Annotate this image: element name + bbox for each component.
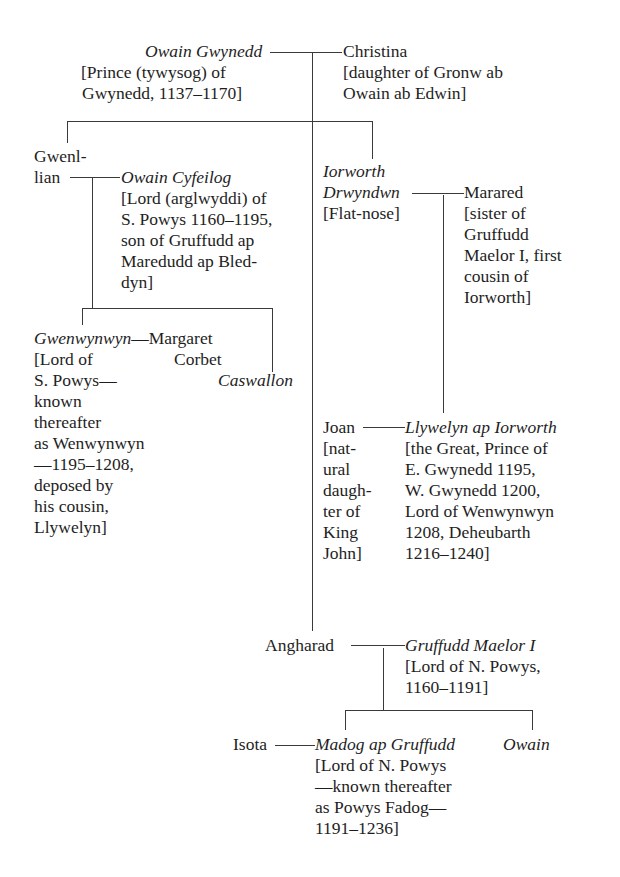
note-gruffudd-maelor-2: 1160–1191] [405, 677, 488, 699]
note-marared-2: Gruffudd [464, 224, 529, 246]
marriage-line-owain-christina [270, 52, 342, 53]
note-owain-gwynedd-2: Gwynedd, 1137–1170] [82, 83, 242, 105]
note-gwenwynwyn-4: thereafter [34, 412, 101, 434]
person-gwenllian-1: Gwenl- [34, 146, 86, 168]
sibling-bar-cyfeilog [82, 308, 272, 309]
person-owain-cyfeilog: Owain Cyfeilog [121, 167, 231, 189]
marriage-line-angharad-gruffudd [351, 645, 405, 646]
marriage-line-joan-llywelyn [363, 427, 405, 428]
descent-line-iorworth [372, 121, 373, 159]
note-llywelyn-2: E. Gwynedd 1195, [405, 459, 536, 481]
descent-line-gwenllian [67, 121, 68, 143]
note-madog-2: —known thereafter [315, 776, 452, 798]
note-gwenwynwyn-7: deposed by [34, 475, 113, 497]
descent-line-owain [532, 710, 533, 730]
note-madog-4: 1191–1236] [315, 818, 399, 840]
person-owain: Owain [503, 734, 550, 756]
note-marared-4: cousin of [464, 266, 529, 288]
person-caswallon: Caswallon [218, 370, 293, 392]
note-joan-3: daugh- [323, 480, 372, 502]
note-joan-2: ural [323, 459, 350, 481]
person-madog: Madog ap Gruffudd [315, 734, 455, 756]
note-gruffudd-maelor-1: [Lord of N. Powys, [405, 656, 541, 678]
descent-line-caswallon [272, 308, 273, 372]
person-margaret-1: Margaret [149, 328, 213, 348]
person-gwenwynwyn: Gwenwynwyn [34, 328, 131, 348]
note-llywelyn-6: 1216–1240] [405, 543, 490, 565]
person-gruffudd-maelor: Gruffudd Maelor I [405, 635, 535, 657]
person-llywelyn: Llywelyn ap Iorworth [405, 417, 557, 439]
descent-line-main-trunk [312, 53, 313, 631]
note-christina-1: [daughter of Gronw ab [343, 62, 503, 84]
descent-line-gruffudd-children [383, 648, 384, 710]
person-isota: Isota [233, 734, 267, 756]
note-owain-cyfeilog-5: dyn] [121, 272, 153, 294]
note-owain-cyfeilog-1: [Lord (arglwyddi) of [121, 188, 266, 210]
person-iorworth-1: Iorworth [323, 161, 385, 183]
marriage-line-iorworth-marared [412, 193, 464, 194]
marriage-line-gwenllian-cyfeilog [70, 177, 120, 178]
note-gwenwynwyn-2: S. Powys— [34, 370, 117, 392]
person-gwenllian-2: lian [34, 167, 60, 189]
note-owain-cyfeilog-4: Maredudd ap Bled- [121, 251, 257, 273]
note-joan-5: King [323, 522, 358, 544]
sibling-bar-gruffudd [345, 710, 533, 711]
note-joan-6: John] [323, 543, 362, 565]
marriage-line-isota-madog [275, 745, 315, 746]
marriage-dash: — [131, 328, 149, 348]
note-gwenwynwyn-9: Llywelyn] [34, 517, 107, 539]
person-margaret-2: Corbet [174, 349, 222, 371]
note-llywelyn-4: Lord of Wenwynwyn [405, 501, 554, 523]
descent-line-gwenwynwyn [82, 308, 83, 325]
note-owain-gwynedd-1: [Prince (tywysog) of [81, 62, 226, 84]
note-madog-3: as Powys Fadog— [315, 797, 446, 819]
note-joan-4: ter of [323, 501, 360, 523]
note-gwenwynwyn-8: his cousin, [34, 496, 109, 518]
note-llywelyn-3: W. Gwynedd 1200, [405, 480, 540, 502]
note-iorworth: [Flat-nose] [323, 203, 400, 225]
note-marared-3: Maelor I, first [464, 245, 562, 267]
descent-line-cyfeilog-children [92, 178, 93, 308]
person-iorworth-2: Drwyndwn [323, 182, 400, 204]
note-gwenwynwyn-6: —1195–1208, [34, 454, 134, 476]
person-gwenwynwyn-line: Gwenwynwyn—Margaret [34, 328, 213, 350]
note-marared-5: Iorworth] [464, 287, 531, 309]
person-angharad: Angharad [265, 635, 334, 657]
note-llywelyn-5: 1208, Deheubarth [405, 522, 530, 544]
note-owain-cyfeilog-3: son of Gruffudd ap [121, 230, 254, 252]
note-joan-1: [nat- [323, 438, 356, 460]
note-christina-2: Owain ab Edwin] [343, 83, 466, 105]
person-joan: Joan [323, 417, 355, 439]
person-christina: Christina [343, 41, 407, 63]
sibling-bar-owain-gwynedd [67, 121, 372, 122]
note-gwenwynwyn-3: known [34, 391, 82, 413]
person-owain-gwynedd: Owain Gwynedd [145, 41, 262, 63]
person-marared: Marared [464, 182, 523, 204]
descent-line-madog [345, 710, 346, 730]
note-llywelyn-1: [the Great, Prince of [405, 438, 548, 460]
note-gwenwynwyn-1: [Lord of [34, 349, 93, 371]
note-gwenwynwyn-5: as Wenwynwyn [34, 433, 145, 455]
note-owain-cyfeilog-2: S. Powys 1160–1195, [121, 209, 272, 231]
descent-line-llywelyn [443, 195, 444, 413]
note-marared-1: [sister of [464, 203, 526, 225]
note-madog-1: [Lord of N. Powys [315, 755, 446, 777]
